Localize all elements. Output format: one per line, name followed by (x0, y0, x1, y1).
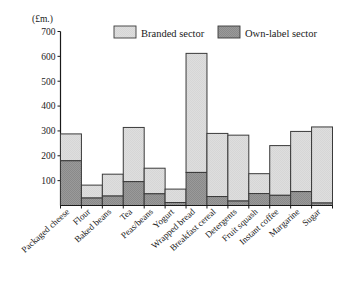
bar-segment-branded (102, 174, 123, 196)
bar-group (270, 146, 291, 206)
bar-group (61, 134, 82, 206)
chart-svg: (£m.) Branded sectorOwn-label sector 100… (0, 0, 341, 286)
y-axis-tick-label: 200 (41, 151, 56, 161)
bar-group (144, 168, 165, 205)
bar-segment-branded (249, 174, 270, 194)
chart-canvas: (£m.) Branded sectorOwn-label sector 100… (0, 0, 341, 286)
y-axis-tick-label: 400 (41, 101, 56, 111)
bar-group (207, 133, 228, 205)
bar-group (228, 135, 249, 205)
y-axis-tick-label: 700 (41, 27, 56, 37)
bar-segment-branded (186, 53, 207, 172)
bar-segment-own-label (291, 192, 312, 206)
y-axis-tick-label: 500 (41, 77, 56, 87)
bar-segment-own-label (61, 161, 82, 206)
bar-group (291, 131, 312, 205)
bar-segment-branded (207, 133, 228, 196)
stacked-bar-chart: (£m.) Branded sectorOwn-label sector 100… (0, 0, 341, 286)
bar-group (312, 127, 333, 206)
bar-segment-own-label (270, 195, 291, 205)
y-axis-unit-group: (£m.) (32, 14, 53, 25)
bar-group (249, 174, 270, 206)
bar-group (123, 127, 144, 205)
branded-sector-swatch (114, 26, 136, 38)
bar-segment-branded (81, 185, 102, 198)
bar-group (81, 185, 102, 205)
bar-segment-branded (123, 127, 144, 181)
bar-segment-branded (61, 134, 82, 161)
bar-segment-own-label (249, 194, 270, 206)
legend-label: Branded sector (141, 28, 205, 39)
bar-group (186, 53, 207, 205)
legend-label: Own-label sector (245, 28, 318, 39)
bar-segment-own-label (81, 198, 102, 205)
y-axis-tick-label: 300 (41, 126, 56, 136)
bar-segment-branded (144, 168, 165, 194)
bar-segment-own-label (228, 201, 249, 205)
bar-segment-branded (165, 189, 186, 202)
bar-group (165, 189, 186, 205)
y-axis-tick-label: 600 (41, 52, 56, 62)
y-axis-unit-label: (£m.) (32, 14, 53, 25)
y-axis-tick-label: 100 (41, 176, 56, 186)
bar-segment-branded (270, 146, 291, 196)
own-label-sector-swatch (218, 26, 240, 38)
bar-segment-branded (228, 135, 249, 201)
bar-segment-own-label (123, 182, 144, 206)
bar-segment-own-label (207, 197, 228, 206)
bar-segment-own-label (144, 194, 165, 206)
bar-segment-branded (291, 131, 312, 191)
bar-group (102, 174, 123, 205)
bar-segment-own-label (186, 172, 207, 205)
legend-item: Branded sector (114, 26, 205, 39)
legend-item: Own-label sector (218, 26, 318, 39)
bar-segment-branded (312, 127, 333, 203)
bar-segment-own-label (102, 196, 123, 205)
